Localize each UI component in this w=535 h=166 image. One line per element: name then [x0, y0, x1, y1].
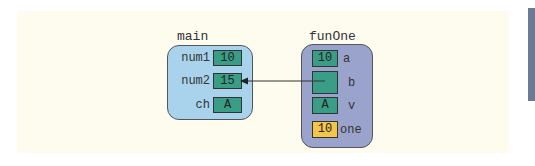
reference-arrow — [0, 0, 535, 166]
arrow-head-icon — [240, 78, 248, 85]
